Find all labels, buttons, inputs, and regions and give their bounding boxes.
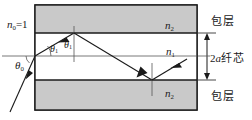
label-theta0: θ0 [15, 60, 24, 72]
fiber-ray-diagram: n0=1 n2 n1 n2 包层 包层 2a纤芯 θ0 θ1 θ1 [0, 0, 252, 120]
label-theta1-left-sub: 1 [55, 47, 58, 54]
label-n0: n0=1 [7, 19, 28, 31]
label-n0-eq: =1 [16, 18, 28, 30]
label-n2-top: n2 [165, 20, 174, 32]
label-cladding-top: 包层 [211, 16, 235, 27]
label-theta0-sub: 0 [20, 65, 23, 72]
label-n2-bottom: n2 [165, 88, 174, 100]
label-core-diameter: 2a纤芯 [210, 53, 245, 64]
label-theta1-right: θ1 [64, 40, 72, 51]
label-cladding-bottom: 包层 [211, 91, 235, 102]
label-n1: n1 [166, 46, 175, 58]
core-dimension-arrow-top [204, 33, 210, 40]
label-theta1-right-sub: 1 [69, 43, 72, 50]
label-n2-bottom-sub: 2 [171, 93, 174, 100]
label-n1-sub: 1 [172, 51, 175, 58]
label-n2-top-sub: 2 [171, 25, 174, 32]
label-theta1-left: θ1 [50, 44, 58, 55]
core-dimension-arrow-bottom [204, 73, 210, 80]
angle-arc-theta0 [26, 56, 30, 63]
label-core-cjk: 纤芯 [221, 52, 245, 65]
